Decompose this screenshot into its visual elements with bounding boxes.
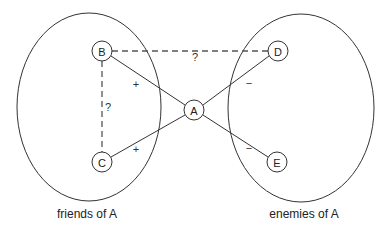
node-e: E [267, 152, 287, 172]
node-b: B [92, 41, 112, 61]
node-c: C [92, 152, 112, 172]
edge-a-c-positive [111, 115, 185, 157]
signed-graph-diagram: + + − − ? ? A B C D E friends of A enemi… [0, 0, 383, 230]
edge-b-c-sign: ? [105, 101, 111, 113]
edge-a-b-positive [111, 56, 185, 105]
node-e-label: E [273, 157, 280, 169]
friends-group-ellipse [17, 13, 161, 201]
node-a-label: A [190, 105, 198, 117]
node-d-label: D [274, 46, 282, 58]
node-d: D [268, 41, 288, 61]
edge-a-b-sign: + [133, 78, 139, 90]
enemies-group-ellipse [228, 14, 374, 202]
edge-a-c-sign: + [133, 143, 139, 155]
edge-b-d-sign: ? [192, 51, 198, 63]
friends-caption: friends of A [57, 207, 117, 221]
node-a: A [184, 100, 204, 120]
node-c-label: C [98, 157, 106, 169]
edge-a-d-sign: − [246, 77, 252, 89]
node-b-label: B [98, 46, 105, 58]
edge-a-e-sign: − [246, 142, 252, 154]
enemies-caption: enemies of A [269, 207, 338, 221]
